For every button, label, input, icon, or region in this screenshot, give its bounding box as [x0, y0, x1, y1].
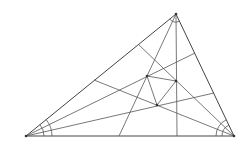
edge-ca	[26, 14, 176, 136]
triangle-edges	[26, 14, 234, 136]
point-dot	[25, 135, 28, 138]
morley-diagram	[0, 0, 250, 147]
vertex-points	[25, 13, 236, 138]
morley-edge	[147, 76, 157, 105]
trisector-lines	[26, 14, 234, 136]
angle-arc	[170, 19, 180, 22]
point-dot	[156, 104, 159, 107]
angle-arc	[40, 125, 44, 136]
angle-arc	[46, 120, 52, 136]
point-dot	[175, 80, 178, 83]
point-dot	[233, 135, 236, 138]
morley-edge	[157, 81, 176, 105]
trisector-line	[176, 14, 177, 136]
trisector-line	[26, 53, 195, 136]
trisector-line	[26, 93, 214, 136]
edge-bc	[176, 14, 234, 136]
point-dot	[175, 13, 178, 16]
point-dot	[146, 75, 149, 78]
trisector-line	[94, 80, 234, 136]
angle-arcs	[40, 19, 229, 136]
morley-triangle	[147, 76, 176, 105]
